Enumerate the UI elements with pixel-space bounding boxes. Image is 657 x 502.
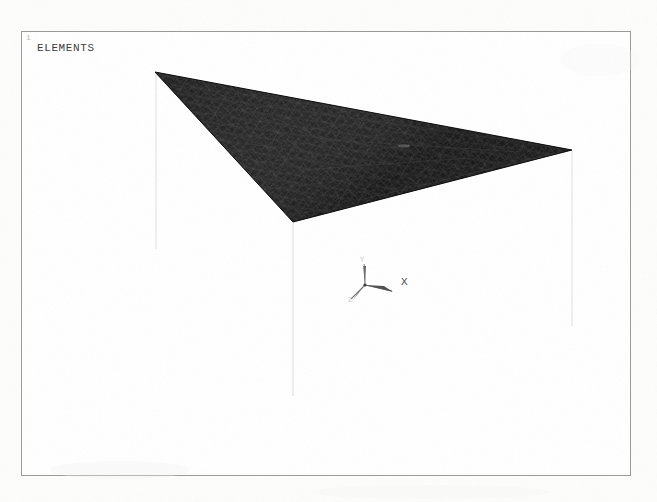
window-number-label: 1 — [26, 33, 31, 42]
plot-frame — [21, 31, 631, 476]
triad-label-x: X — [401, 276, 408, 288]
page-title: ELEMENTS — [37, 42, 95, 54]
triad-label-z: Z — [348, 296, 352, 304]
triad-label-y: Y — [360, 256, 364, 264]
